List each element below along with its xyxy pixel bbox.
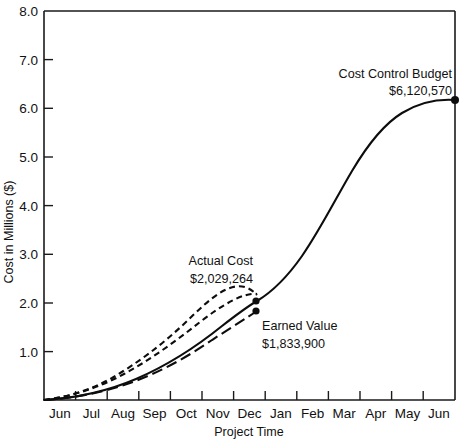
annotation-earned-value: Earned Value $1,833,900 xyxy=(262,319,337,351)
annotation-cost-control-budget: Cost Control Budget $6,120,570 xyxy=(339,67,453,98)
x-tick-label-may: May xyxy=(395,406,421,421)
chart-page: 8.0 7.0 6.0 5.0 4.0 3.0 2.0 1.0 Cost in … xyxy=(0,0,467,440)
y-tick-label-7: 7.0 xyxy=(19,53,38,68)
x-tick-label-mar: Mar xyxy=(333,406,357,421)
annotation-actual-cost-title: Actual Cost xyxy=(189,254,254,268)
annotation-actual-cost: Actual Cost $2,029,264 xyxy=(189,254,254,286)
annotation-actual-cost-amount: $2,029,264 xyxy=(190,272,253,286)
x-axis-ticks xyxy=(76,391,424,400)
y-tick-label-5: 5.0 xyxy=(19,150,38,165)
project-cost-chart: 8.0 7.0 6.0 5.0 4.0 3.0 2.0 1.0 Cost in … xyxy=(0,0,467,440)
x-tick-label-nov: Nov xyxy=(206,406,230,421)
y-axis-title: Cost in Millions ($) xyxy=(2,181,16,284)
y-tick-label-4: 4.0 xyxy=(19,199,38,214)
data-point-actual-cost xyxy=(252,297,259,304)
x-tick-label-jun2: Jun xyxy=(428,406,450,421)
series-solid-line xyxy=(44,100,455,400)
y-tick-label-3: 3.0 xyxy=(19,247,38,262)
data-point-cost-control-budget xyxy=(451,96,459,104)
x-tick-label-aug: Aug xyxy=(111,406,135,421)
series-short-dashed-line xyxy=(44,286,257,400)
annotation-earned-value-amount: $1,833,900 xyxy=(262,337,325,351)
x-tick-label-jan: Jan xyxy=(270,406,292,421)
x-tick-label-feb: Feb xyxy=(301,406,324,421)
y-tick-label-2: 2.0 xyxy=(19,296,38,311)
x-tick-label-jul: Jul xyxy=(83,406,100,421)
x-tick-label-sep: Sep xyxy=(143,406,167,421)
x-axis-title: Project Time xyxy=(214,425,284,439)
y-axis-tick-labels: 8.0 7.0 6.0 5.0 4.0 3.0 2.0 1.0 xyxy=(19,4,38,360)
y-tick-label-6: 6.0 xyxy=(19,101,38,116)
series-short-dashed-line-b xyxy=(44,294,257,400)
annotation-earned-value-title: Earned Value xyxy=(262,319,337,333)
x-axis-tick-labels: Jun Jul Aug Sep Oct Nov Dec Jan Feb Mar … xyxy=(49,406,450,421)
annotation-cost-control-budget-title: Cost Control Budget xyxy=(339,67,453,81)
annotation-cost-control-budget-amount: $6,120,570 xyxy=(389,84,452,98)
top-crop-strip xyxy=(0,0,467,6)
x-tick-label-dec: Dec xyxy=(237,406,261,421)
y-axis-ticks xyxy=(44,60,53,352)
x-tick-label-jun1: Jun xyxy=(49,406,71,421)
y-tick-label-1: 1.0 xyxy=(19,345,38,360)
x-tick-label-apr: Apr xyxy=(365,406,387,421)
data-point-earned-value xyxy=(252,307,259,314)
y-tick-label-8: 8.0 xyxy=(19,4,38,19)
x-tick-label-oct: Oct xyxy=(176,406,197,421)
